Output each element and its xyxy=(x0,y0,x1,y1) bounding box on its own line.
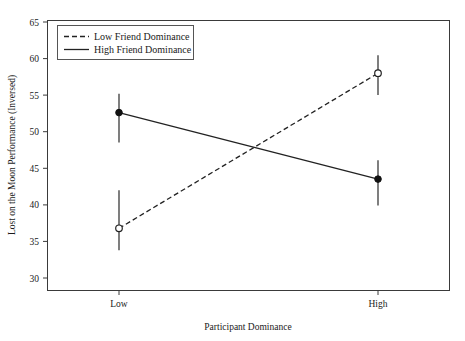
data-point-high-high xyxy=(375,176,382,183)
data-point-low-low xyxy=(116,225,123,232)
chart-legend: Low Friend Dominance High Friend Dominan… xyxy=(58,26,194,60)
chart-container: 65 60 55 50 45 40 35 30 Lost on the Moon… xyxy=(0,0,465,341)
legend-label-low-friend-dominance: Low Friend Dominance xyxy=(94,31,190,42)
x-tick-label-low: Low xyxy=(110,299,128,309)
y-tick-label-60: 60 xyxy=(30,54,40,64)
interaction-plot-svg: 65 60 55 50 45 40 35 30 Lost on the Moon… xyxy=(0,0,465,341)
y-tick-label-40: 40 xyxy=(30,200,40,210)
y-tick-label-50: 50 xyxy=(30,127,40,137)
y-tick-label-30: 30 xyxy=(30,274,40,284)
data-point-low-high xyxy=(375,70,382,77)
y-tick-label-35: 35 xyxy=(30,237,40,247)
legend-label-high-friend-dominance: High Friend Dominance xyxy=(94,44,192,55)
data-point-high-low xyxy=(116,109,123,116)
y-tick-label-65: 65 xyxy=(30,18,40,28)
y-axis-title: Lost on the Moon Performance (Inversed) xyxy=(7,75,18,235)
x-axis-title: Participant Dominance xyxy=(204,322,291,332)
y-tick-label-55: 55 xyxy=(30,91,40,101)
y-tick-label-45: 45 xyxy=(30,164,40,174)
x-tick-label-high: High xyxy=(369,299,388,309)
